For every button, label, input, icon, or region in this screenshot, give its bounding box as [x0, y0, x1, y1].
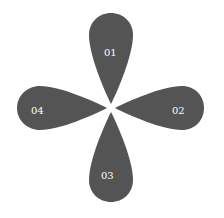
petal-label-03: 03	[101, 170, 114, 181]
petal-01: 01	[89, 13, 133, 104]
petal-diagram: 01 02 03 04	[0, 0, 224, 218]
petal-label-01: 01	[104, 47, 117, 58]
petal-03: 03	[89, 112, 133, 202]
petal-label-04: 04	[31, 105, 44, 116]
petal-04: 04	[17, 86, 107, 130]
petal-02: 02	[115, 86, 204, 130]
petal-label-02: 02	[172, 105, 185, 116]
